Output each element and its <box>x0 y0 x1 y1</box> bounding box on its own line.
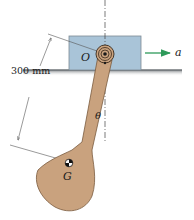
label-a: a <box>175 46 182 59</box>
label-g: G <box>63 170 72 183</box>
dimension-label: 300 mm <box>11 65 50 76</box>
dimension-line <box>40 38 51 66</box>
center-of-mass-icon <box>65 159 73 167</box>
dimension-line-lower <box>18 97 29 140</box>
pendulum-on-cart-diagram: O a θ G 300 mm <box>0 0 194 220</box>
label-o: O <box>81 51 90 64</box>
pendulum-link <box>36 56 112 211</box>
label-theta: θ <box>95 110 101 121</box>
